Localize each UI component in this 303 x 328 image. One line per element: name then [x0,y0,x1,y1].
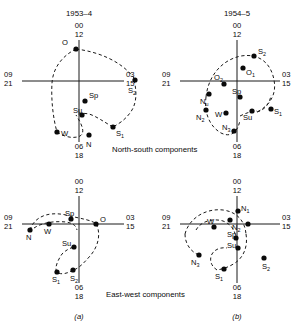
point-label-N: N [26,233,31,242]
data-curve-left [52,49,76,132]
point-label-Su: Su [73,106,82,115]
tick-right-lower: 15 [282,222,290,231]
tick-bottom-lower: 18 [233,151,241,160]
point-label-Sp: Sp [89,91,98,100]
tick-right-lower: 15 [282,79,290,88]
data-curve-right-loop [73,224,99,270]
panel-bottom-left: 00 12 03 15 06 18 09 21 Sp O W N Su S2 [0,164,152,328]
tick-right-upper: 03 [126,213,134,222]
tick-left-lower: 21 [4,222,12,231]
tick-bottom-upper: 06 [75,283,83,292]
data-point [203,107,208,112]
tick-bottom-lower: 18 [233,292,241,301]
data-curve-right-loop [217,234,247,270]
tick-bottom-upper: 06 [233,142,241,151]
data-point [54,269,59,274]
data-point [110,124,115,129]
tick-top-lower: 12 [233,186,241,195]
point-label-N3: N3 [222,123,230,133]
point-label-N1: N1 [241,204,249,214]
tick-top-upper: 00 [233,21,241,30]
point-label-Nu: Nu [200,97,208,107]
data-point [86,132,91,137]
point-label-W: W [61,129,69,138]
point-label-O2: O2 [214,73,223,83]
data-point-group: N1 N2 W Sp Su N3 S2 S1 [191,204,270,282]
data-point [227,217,232,222]
data-point [93,221,98,226]
data-point [54,129,59,134]
data-point [223,110,228,115]
data-curve-inner [34,222,77,230]
point-label-S1: S1 [274,107,282,117]
point-label-S2: S2 [128,86,136,96]
tick-left-upper: 09 [4,213,12,222]
panel-title-1954: 1954–5 [224,9,251,18]
point-label-S2: S2 [70,274,78,284]
point-label-N3: N3 [191,258,199,268]
data-point [46,221,51,226]
data-point [132,77,137,82]
point-label-Su: Su [62,239,71,248]
point-label-S1: S1 [52,275,60,285]
point-label-O1: O1 [246,68,255,78]
point-label-O: O [62,38,68,47]
tick-top-lower: 12 [75,30,83,39]
tick-top-upper: 00 [75,21,83,30]
data-point-group: O S2 Sp Su S1 W N [54,38,137,149]
point-label-W: W [215,110,223,119]
data-point [206,91,211,96]
tick-left-lower: 21 [4,79,12,88]
data-point [70,267,75,272]
data-point [71,244,76,249]
point-label-Su: Su [243,113,252,122]
data-point [240,65,245,70]
data-point [27,227,32,232]
tick-right-upper: 03 [282,213,290,222]
data-point [231,128,236,133]
panel-top-right: 1954–5 00 12 03 15 06 18 09 21 S2 O1 O2 … [151,0,303,164]
data-point [196,252,201,257]
data-point [221,266,226,271]
tick-left-upper: 09 [4,70,12,79]
tick-top-upper: 00 [233,177,241,186]
panel-title-1953: 1953–4 [66,9,93,18]
data-point [268,106,273,111]
tick-left-upper: 09 [162,213,170,222]
data-curve-outer [206,55,275,112]
data-point [245,221,250,226]
tick-bottom-lower: 18 [75,292,83,301]
tick-top-lower: 12 [233,30,241,39]
point-label-S2: S2 [258,47,266,57]
point-label-Sp: Sp [227,230,236,239]
tick-right-lower: 15 [126,222,134,231]
data-point [235,208,240,213]
tick-bottom-upper: 06 [75,142,83,151]
tick-bottom-lower: 18 [75,151,83,160]
tick-top-upper: 00 [75,177,83,186]
panel-label-a: (a) [74,312,84,321]
point-label-Sp: Sp [232,87,241,96]
tick-left-lower: 21 [162,222,170,231]
point-label-S2: S2 [262,262,270,272]
tick-right-upper: 03 [282,70,290,79]
panel-bottom-right: 00 12 03 15 06 18 09 21 N1 N2 W Sp Su [151,164,303,328]
point-label-W: W [44,227,52,236]
data-curve-left-loop [185,234,199,255]
tick-left-upper: 09 [162,70,170,79]
point-label-N: N [86,140,91,149]
tick-top-lower: 12 [75,186,83,195]
panel-label-b: (b) [232,312,242,321]
point-label-Su: Su [227,241,236,250]
data-point [73,46,78,51]
tick-left-lower: 21 [162,79,170,88]
data-point [82,98,87,103]
data-point [261,255,266,260]
data-point [251,53,256,58]
tick-bottom-upper: 06 [233,283,241,292]
figure-root: 1953–4 00 12 03 15 06 18 09 21 O S2 Sp S… [0,0,303,328]
point-label-Sp: Sp [65,209,74,218]
point-label-O: O [100,215,106,224]
point-label-W: W [207,217,215,226]
point-label-S1: S1 [215,272,223,282]
